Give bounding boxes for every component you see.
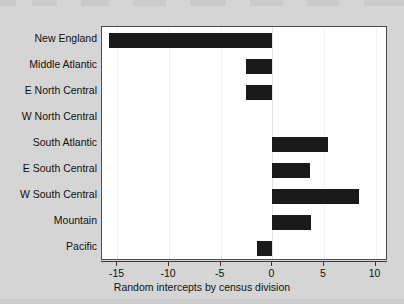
x-tick-label: 5 [320,267,326,279]
x-tick-mark [220,261,221,266]
category-label: New England [0,33,97,44]
x-tick-mark [271,261,272,266]
x-axis-title: Random intercepts by census division [0,281,404,293]
bar [246,59,273,74]
category-label: Middle Atlantic [0,59,97,70]
x-tick-mark [375,261,376,266]
gridline [117,27,118,259]
category-axis-labels: New EnglandMiddle AtlanticE North Centra… [0,26,97,260]
bar [257,241,272,256]
bar [272,189,359,204]
scan-artifact-top [0,0,404,6]
category-label: W South Central [0,189,97,200]
x-axis-line [101,261,387,262]
bar-chart-figure: New EnglandMiddle AtlanticE North Centra… [0,0,404,304]
x-tick-label: -15 [109,267,124,279]
x-tick-label: -5 [215,267,224,279]
gridline [221,27,222,259]
plot-panel [101,26,387,260]
bar [272,137,328,152]
x-tick-label: 10 [369,267,381,279]
category-label: Mountain [0,215,97,226]
gridline [376,27,377,259]
x-tick-mark [116,261,117,266]
x-tick-label: 0 [268,267,274,279]
x-tick-mark [323,261,324,266]
category-label: South Atlantic [0,137,97,148]
gridline [169,27,170,259]
x-tick-label: -10 [161,267,176,279]
category-label: W North Central [0,111,97,122]
bar [109,33,272,48]
category-label: E North Central [0,85,97,96]
category-label: Pacific [0,241,97,252]
scan-artifact-bottom [0,299,404,304]
bar [272,215,310,230]
category-label: E South Central [0,163,97,174]
bar [246,85,273,100]
x-tick-mark [168,261,169,266]
bar [272,163,309,178]
